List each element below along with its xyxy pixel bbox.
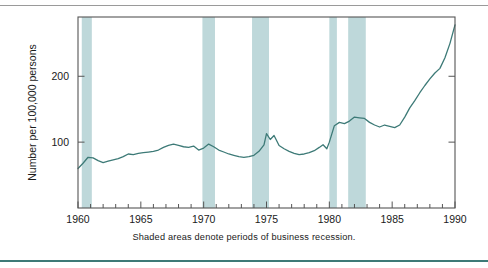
line-chart: 1002001960196519701975198019851990Number… <box>0 0 488 268</box>
x-axis-tick-label-4: 1980 <box>318 213 342 225</box>
bottom-divider-rule <box>0 260 488 262</box>
x-axis-tick-label-2: 1970 <box>192 213 216 225</box>
figure-container: 1002001960196519701975198019851990Number… <box>0 0 488 268</box>
x-axis-tick-label-5: 1985 <box>380 213 404 225</box>
x-axis-tick-label-0: 1960 <box>66 213 90 225</box>
y-axis-tick-label-0: 100 <box>51 136 69 148</box>
x-axis-tick-label-6: 1990 <box>443 213 467 225</box>
x-axis-tick-label-1: 1965 <box>129 213 153 225</box>
y-axis-label: Number per 100,000 persons <box>26 44 38 181</box>
recession-band-1 <box>202 17 215 208</box>
recession-band-2 <box>252 17 269 208</box>
recession-band-4 <box>348 17 366 208</box>
recession-band-3 <box>329 17 337 208</box>
y-axis-tick-label-1: 200 <box>51 70 69 82</box>
chart-caption: Shaded areas denote periods of business … <box>0 232 488 242</box>
recession-band-0 <box>82 17 92 208</box>
x-axis-tick-label-3: 1975 <box>255 213 279 225</box>
